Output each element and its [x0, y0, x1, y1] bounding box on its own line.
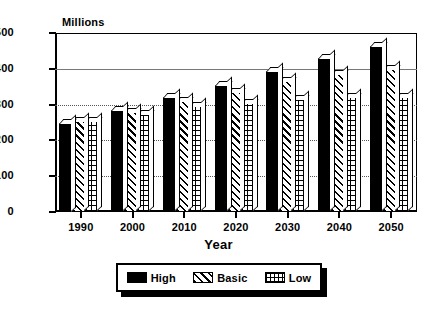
x-axis-tick-mark	[338, 212, 340, 218]
bar-high-2000	[111, 110, 124, 212]
y-axis-tick-label: 400	[0, 62, 14, 74]
x-axis-tick-mark	[183, 212, 185, 218]
y-axis-tick-label: 100	[0, 169, 14, 181]
plot-border-top	[55, 33, 417, 34]
plot-area	[55, 33, 417, 212]
x-axis-tick-mark	[235, 212, 237, 218]
legend-item-basic[interactable]: Basic	[193, 272, 247, 284]
bar-side-face	[253, 94, 258, 211]
bar-side-face	[149, 105, 154, 211]
bar-side-face	[356, 89, 361, 211]
bar-side-face	[240, 84, 245, 211]
y-axis-tick-label: 300	[0, 98, 14, 110]
bar-side-face	[136, 103, 141, 211]
bar-side-face	[227, 76, 232, 211]
legend-swatch-low	[265, 272, 285, 283]
legend-swatch-high	[127, 272, 147, 283]
bar-side-face	[71, 114, 76, 211]
x-axis-tick-mark	[390, 212, 392, 218]
x-axis-tick-mark	[80, 212, 82, 218]
bar-side-face	[84, 112, 89, 211]
legend-label-high: High	[151, 272, 176, 284]
gridline	[55, 69, 417, 71]
bar-high-2050	[370, 46, 383, 212]
x-axis-tick-mark	[132, 212, 134, 218]
x-axis-tick-label-2020: 2020	[210, 221, 262, 233]
x-axis-tick-label-2030: 2030	[262, 221, 314, 233]
y-axis-line	[55, 33, 57, 212]
legend-swatch-basic	[193, 272, 213, 283]
bar-high-2030	[266, 71, 279, 212]
x-axis-tick-mark	[287, 212, 289, 218]
x-axis-tick-label-2010: 2010	[158, 221, 210, 233]
bar-high-2010	[163, 97, 176, 212]
x-axis-tick-label-2040: 2040	[313, 221, 365, 233]
x-axis-tick-label-2050: 2050	[365, 221, 417, 233]
y-axis-tick-label: 500	[0, 26, 14, 38]
bar-high-2040	[318, 58, 331, 212]
legend-label-low: Low	[289, 272, 312, 284]
y-axis-title: Millions	[62, 16, 105, 28]
chart-page: Millions 0100200300400500 19902000201020…	[0, 0, 437, 319]
bar-side-face	[201, 98, 206, 211]
plot-border-right	[416, 33, 417, 212]
bar-side-face	[278, 62, 283, 211]
bar-side-face	[123, 101, 128, 211]
chart-legend: HighBasicLow	[116, 263, 322, 292]
legend-box: HighBasicLow	[116, 263, 322, 292]
legend-item-high[interactable]: High	[127, 272, 176, 284]
bar-side-face	[408, 88, 413, 211]
y-axis-tick-label: 0	[0, 205, 14, 217]
legend-item-low[interactable]: Low	[265, 272, 312, 284]
bar-side-face	[188, 93, 193, 211]
bar-side-face	[343, 66, 348, 211]
bar-side-face	[395, 60, 400, 211]
bar-side-face	[382, 37, 387, 211]
bar-side-face	[304, 91, 309, 211]
bar-side-face	[291, 73, 296, 211]
x-axis-title: Year	[0, 237, 437, 252]
bar-side-face	[97, 112, 102, 211]
bar-high-2020	[215, 85, 228, 212]
x-axis-tick-label-2000: 2000	[107, 221, 159, 233]
y-axis-tick-label: 200	[0, 133, 14, 145]
bar-side-face	[330, 50, 335, 211]
bar-high-1990	[59, 123, 72, 213]
x-axis-tick-label-1990: 1990	[55, 221, 107, 233]
legend-label-basic: Basic	[217, 272, 247, 284]
bar-side-face	[175, 89, 180, 211]
